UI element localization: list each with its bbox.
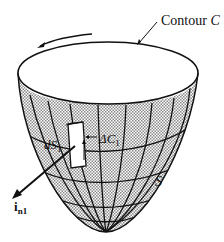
stokes-diagram: Contour C S dS1 ΔC1 in1: [0, 0, 224, 242]
element-contour-label: ΔC1: [99, 132, 120, 148]
normal-arrowhead-icon: [12, 189, 22, 199]
contour-leader: [139, 22, 157, 43]
paraboloid-surface-drawing: [0, 0, 224, 242]
contour-label: Contour C: [161, 14, 220, 28]
surface-element-ds1: [68, 122, 86, 168]
surface-label: S: [155, 175, 162, 189]
arrowhead-icon: [37, 42, 45, 48]
surface-element-label: dS1: [44, 138, 62, 154]
normal-vector-label: in1: [14, 200, 27, 216]
contour-c: [18, 42, 198, 104]
